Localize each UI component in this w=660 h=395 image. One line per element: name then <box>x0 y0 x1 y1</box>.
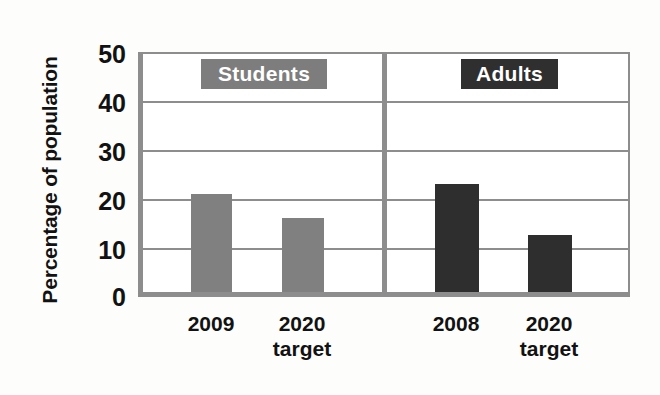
y-tick-40: 40 <box>68 91 126 116</box>
bar-chart-figure: Percentage of population 50 40 30 20 10 … <box>0 0 660 395</box>
panel-label-students: Students <box>201 59 327 89</box>
bar-students-2020-target <box>282 218 324 292</box>
y-tick-20: 20 <box>68 189 126 214</box>
panel-label-adults: Adults <box>461 59 558 89</box>
plot-area: Students Adults <box>138 52 630 297</box>
y-tick-10: 10 <box>68 238 126 263</box>
y-axis-title: Percentage of population <box>38 50 62 310</box>
x-tick-students-target-line1: 2020 <box>279 312 326 335</box>
y-tick-30: 30 <box>68 140 126 165</box>
x-tick-students-target-line2: target <box>242 337 362 362</box>
x-tick-adults-2020-target: 2020 target <box>489 312 609 362</box>
x-tick-students-2009-line1: 2009 <box>188 312 235 335</box>
x-tick-adults-target-line2: target <box>489 337 609 362</box>
panel-divider <box>382 54 387 292</box>
x-tick-adults-target-line1: 2020 <box>526 312 573 335</box>
x-tick-students-2020-target: 2020 target <box>242 312 362 362</box>
bar-adults-2008 <box>435 184 479 292</box>
x-tick-adults-2008-line1: 2008 <box>433 312 480 335</box>
bar-students-2009 <box>191 194 232 292</box>
y-tick-0: 0 <box>68 285 126 310</box>
y-tick-50: 50 <box>68 42 126 67</box>
bar-adults-2020-target <box>528 235 572 292</box>
y-axis-tick-labels: 50 40 30 20 10 0 <box>60 0 126 395</box>
